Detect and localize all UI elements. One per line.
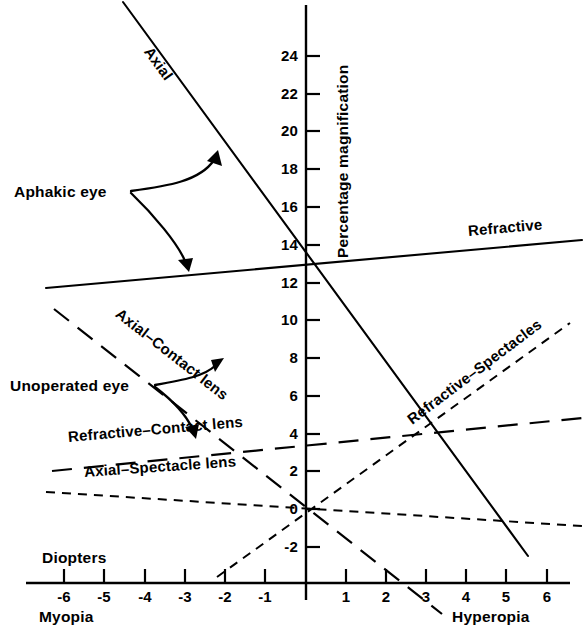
hyperopia-label: Hyperopia (452, 608, 530, 626)
x-tick-label-minus-5: -5 (86, 588, 122, 605)
x-tick-label-6: 6 (531, 588, 563, 605)
y-tick-label-6: 6 (262, 387, 298, 404)
arrowhead-aphakic-to-refractive (178, 258, 193, 272)
arrowhead-aphakic-to-axial (207, 150, 222, 166)
y-tick-label-10: 10 (262, 311, 298, 328)
arrow-aphakic-to-refractive (131, 193, 185, 261)
x-tick-label-4: 4 (450, 588, 482, 605)
y-tick-label-24: 24 (262, 47, 298, 64)
arrow-aphakic-to-axial (131, 160, 214, 191)
y-tick-label-20: 20 (262, 122, 298, 139)
callout-aphakic-eye: Aphakic eye (14, 183, 107, 201)
y-tick-label-22: 22 (262, 85, 298, 102)
x-tick-label-minus-1: -1 (247, 588, 283, 605)
y-tick-label-8: 8 (262, 349, 298, 366)
x-tick-label-minus-4: -4 (127, 588, 163, 605)
y-axis-title: Percentage magnification (334, 65, 352, 258)
x-tick-label-minus-6: -6 (46, 588, 82, 605)
magnification-chart-figure: 24 22 20 18 16 14 12 10 8 6 4 2 0 -2 -6 … (0, 0, 585, 631)
line-refractive (46, 240, 582, 288)
x-tick-label-2: 2 (370, 588, 402, 605)
x-tick-label-minus-3: -3 (167, 588, 203, 605)
callout-arrows (131, 150, 224, 439)
myopia-label: Myopia (39, 608, 94, 626)
x-axis-title: Diopters (42, 549, 106, 567)
x-tick-label-5: 5 (490, 588, 522, 605)
x-tick-label-minus-2: -2 (207, 588, 243, 605)
y-tick-label-2: 2 (262, 462, 298, 479)
y-tick-label-16: 16 (262, 198, 298, 215)
axes (26, 5, 570, 600)
x-tick-label-3: 3 (410, 588, 442, 605)
y-tick-label-12: 12 (262, 274, 298, 291)
x-tick-label-1: 1 (330, 588, 362, 605)
arrowhead-unoperated-to-axial-contact (211, 358, 224, 372)
y-tick-label-minus-2: -2 (254, 538, 298, 555)
y-tick-label-14: 14 (262, 236, 298, 253)
callout-unoperated-eye: Unoperated eye (10, 377, 129, 395)
y-tick-label-18: 18 (262, 160, 298, 177)
y-axis-ticks (306, 56, 320, 547)
y-tick-label-4: 4 (262, 425, 298, 442)
y-tick-label-0: 0 (262, 500, 298, 517)
